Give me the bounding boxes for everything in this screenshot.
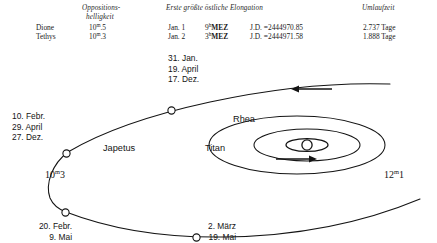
japetus-orbit-left-cap: [48, 152, 68, 212]
table-row-julian-date: J.D. =2444971.58: [250, 32, 303, 41]
moon-label-titan: Titan: [205, 143, 225, 153]
magnitude-annotation-right: 12m1: [384, 169, 404, 180]
japetus-orbit-lower-arc: [66, 199, 420, 237]
moon-label-rhea: Rhea: [233, 114, 255, 124]
magnitude-value: 10: [45, 169, 55, 180]
magnitude-fraction: 1: [399, 169, 404, 180]
column-header-brightness-line2: helligkeit: [86, 13, 114, 21]
date-line: 19. April: [168, 64, 199, 75]
column-header-elongation: Erste größte östliche Elongation: [166, 4, 263, 12]
date-line: 31. Jan.: [168, 53, 199, 64]
table-row-magnitude: 10m.3: [89, 32, 106, 41]
jd-value: 2444970.85: [268, 23, 303, 32]
date-group-left-node: 10. Febr. 29. April 27. Dez.: [12, 111, 45, 143]
table-row-elongation-date: Jan. 1: [168, 23, 185, 32]
table-row-orbital-period: 1.888 Tage: [363, 32, 396, 41]
table-row-orbital-period: 2.737 Tage: [363, 23, 396, 32]
japetus-orbit-upper-arc: [68, 84, 390, 152]
date-group-upper-node: 31. Jan. 19. April 17. Dez.: [168, 53, 199, 85]
magnitude-annotation-left: 10m3: [45, 169, 65, 180]
date-line: 19. Mai: [160, 232, 236, 243]
magnitude-value: 12: [384, 169, 394, 180]
column-header-brightness-line1: Oppositions-: [82, 4, 120, 12]
magnitude-fraction: .5: [100, 23, 106, 32]
orbit-diagram: 31. Jan. 19. April 17. Dez. 10. Febr. 29…: [0, 42, 437, 243]
time-zone: MEZ: [211, 32, 228, 41]
jd-label: J.D. =: [250, 23, 268, 32]
table-row-elongation-date: Jan. 2: [168, 32, 185, 41]
table-row-body-name: Dione: [36, 23, 54, 32]
table-row-elongation-time: 3hMEZ: [205, 32, 228, 41]
magnitude-fraction: 3: [60, 169, 65, 180]
date-line: 9. Mai: [0, 232, 72, 243]
date-line: 2. März: [160, 221, 236, 232]
date-line: 10. Febr.: [12, 111, 45, 122]
moon-label-japetus: Japetus: [103, 143, 135, 153]
magnitude-fraction: .3: [100, 32, 106, 41]
date-line: 27. Dez.: [12, 132, 45, 143]
time-zone: MEZ: [211, 23, 228, 32]
arrow-right-icon: [276, 156, 317, 163]
date-line: 29. April: [12, 122, 45, 133]
figure-root: Oppositions- helligkeit Erste größte öst…: [0, 0, 437, 243]
date-group-lower-left-node: 20. Febr. 9. Mai: [0, 221, 72, 242]
orbit-node-marker-upper: [168, 107, 175, 114]
jd-value: 2444971.58: [268, 32, 303, 41]
saturn-globe: [302, 140, 312, 150]
orbit-node-marker-lower-left: [62, 209, 69, 216]
satellite-data-table: Oppositions- helligkeit Erste größte öst…: [0, 0, 437, 44]
table-row-body-name: Tethys: [36, 32, 56, 41]
jd-label: J.D. =: [250, 32, 268, 41]
date-group-lower-mid-node: 2. März 19. Mai: [160, 221, 236, 242]
table-row-julian-date: J.D. =2444970.85: [250, 23, 303, 32]
orbit-node-marker-left: [63, 150, 70, 157]
titan-orbit: [209, 116, 385, 174]
date-line: 20. Febr.: [0, 221, 72, 232]
date-line: 17. Dez.: [168, 74, 199, 85]
column-header-period: Umlaufzeit: [362, 4, 395, 12]
